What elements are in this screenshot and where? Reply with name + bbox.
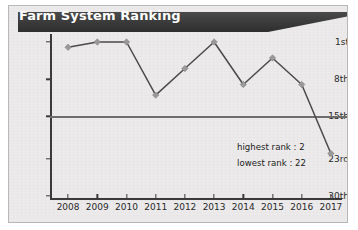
annotation-highest-rank: highest rank : 2: [237, 142, 305, 152]
series-polyline: [68, 42, 331, 154]
annotation-lowest-rank: lowest rank : 22: [237, 158, 306, 168]
chart-figure: Farm System Ranking 1st8th15th23rd30th 2…: [0, 0, 358, 230]
plot-area: 1st8th15th23rd30th 200820092010201120122…: [9, 6, 348, 223]
series-markers: [65, 39, 334, 157]
data-point-marker: [94, 39, 100, 45]
data-point-marker: [328, 150, 334, 156]
data-point-marker: [123, 39, 129, 45]
data-point-marker: [65, 44, 71, 50]
chart-card: Farm System Ranking 1st8th15th23rd30th 2…: [8, 5, 348, 223]
series-line-chart: [9, 6, 348, 223]
